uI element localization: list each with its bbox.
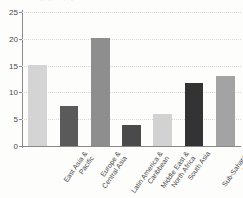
bar-chart-figure: '', , '', ,' 0510152025 East Asia &Pacif…	[0, 0, 243, 198]
y-axis-tick-mark	[19, 146, 22, 147]
gridline	[22, 92, 241, 93]
gridline	[22, 66, 241, 67]
y-axis-tick-label: 15	[9, 61, 18, 70]
bar	[28, 65, 47, 146]
gridline	[22, 12, 241, 13]
plot-area: 0510152025	[22, 12, 241, 146]
bar	[91, 38, 110, 146]
y-axis-tick-label: 20	[9, 34, 18, 43]
y-axis-tick-mark	[19, 12, 22, 13]
x-axis-label: Europe &Central Asia	[94, 150, 129, 190]
bar	[185, 83, 204, 146]
y-axis-tick-label: 5	[14, 115, 18, 124]
bar	[122, 125, 141, 146]
cropped-title-remnant: '', , '', ,'	[0, 0, 243, 7]
bar	[153, 114, 172, 146]
bar	[60, 106, 79, 146]
y-axis-tick-label: 0	[14, 142, 18, 151]
x-axis-label: East Asia &Pacific	[62, 150, 96, 189]
x-axis-line	[22, 146, 241, 147]
y-axis-tick-mark	[19, 119, 22, 120]
y-axis-tick-mark	[19, 66, 22, 67]
x-axis-label: Sub-SaharanAfrica	[221, 150, 243, 193]
gridline	[22, 119, 241, 120]
bar	[216, 76, 235, 146]
title-remnant-text: '', , '', ,'	[34, 0, 78, 1]
y-axis-tick-label: 10	[9, 88, 18, 97]
y-axis-tick-mark	[19, 92, 22, 93]
y-axis-tick-label: 25	[9, 8, 18, 17]
y-axis-tick-mark	[19, 39, 22, 40]
gridline	[22, 39, 241, 40]
x-axis-label: Latin America &Caribbean	[130, 150, 171, 198]
